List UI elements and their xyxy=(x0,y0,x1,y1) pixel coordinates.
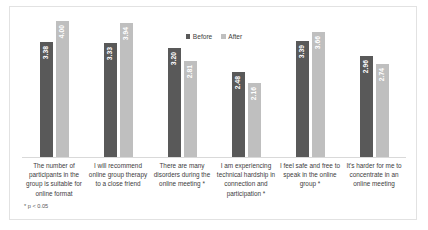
bar-before[interactable]: 3.39 xyxy=(296,41,309,157)
bar-group: 3.33 3.94 xyxy=(86,7,150,157)
category-label: I will recommend online group therapy to… xyxy=(86,161,150,198)
bar-pair: 3.33 3.94 xyxy=(86,7,150,157)
category-label: There are many disorders during the onli… xyxy=(150,161,214,198)
bar-before[interactable]: 3.38 xyxy=(40,42,53,157)
x-axis-line xyxy=(22,157,406,158)
bar-value-label: 4.00 xyxy=(59,25,66,38)
bar-value-label: 3.66 xyxy=(315,36,322,49)
bar-group: 3.39 3.66 xyxy=(278,7,342,157)
category-labels: The number of participants in the group … xyxy=(22,161,406,198)
bar-after[interactable]: 4.00 xyxy=(56,21,69,157)
bar-group: 3.38 4.00 xyxy=(22,7,86,157)
chart-container: Before After 3.38 4.00 xyxy=(9,6,417,220)
bar-value-label: 2.81 xyxy=(187,65,194,78)
significance-footnote: * p < 0.05 xyxy=(24,203,48,209)
bar-pair: 3.20 2.81 xyxy=(150,7,214,157)
bar-pair: 2.48 2.16 xyxy=(214,7,278,157)
bar-value-label: 3.33 xyxy=(107,47,114,60)
bar-before[interactable]: 3.20 xyxy=(168,48,181,157)
bar-pair: 3.39 3.66 xyxy=(278,7,342,157)
bar-value-label: 2.16 xyxy=(251,87,258,100)
bar-group: 2.96 2.74 xyxy=(342,7,406,157)
bar-value-label: 2.96 xyxy=(363,60,370,73)
bar-after[interactable]: 3.66 xyxy=(312,32,325,157)
bar-value-label: 3.94 xyxy=(123,27,130,40)
bar-group: 3.20 2.81 xyxy=(150,7,214,157)
bar-pair: 2.96 2.74 xyxy=(342,7,406,157)
bar-value-label: 3.38 xyxy=(43,46,50,59)
bar-before[interactable]: 3.33 xyxy=(104,43,117,157)
plot-area: 3.38 4.00 3.33 3.94 xyxy=(10,7,418,221)
bar-value-label: 2.74 xyxy=(379,68,386,81)
bar-before[interactable]: 2.48 xyxy=(232,72,245,157)
bar-pair: 3.38 4.00 xyxy=(22,7,86,157)
bar-after[interactable]: 2.81 xyxy=(184,61,197,157)
bar-before[interactable]: 2.96 xyxy=(360,56,373,157)
bar-value-label: 2.48 xyxy=(235,76,242,89)
bar-groups: 3.38 4.00 3.33 3.94 xyxy=(22,7,406,157)
category-label: The number of participants in the group … xyxy=(22,161,86,198)
bar-after[interactable]: 2.16 xyxy=(248,83,261,157)
category-label: I feel safe and free to speak in the onl… xyxy=(278,161,342,198)
category-label: I am experiencing technical hardship in … xyxy=(214,161,278,198)
bar-after[interactable]: 3.94 xyxy=(120,23,133,157)
category-label: It's harder for me to concentrate in an … xyxy=(342,161,406,198)
bar-value-label: 3.20 xyxy=(171,52,178,65)
bar-after[interactable]: 2.74 xyxy=(376,64,389,157)
bar-value-label: 3.39 xyxy=(299,45,306,58)
bar-group: 2.48 2.16 xyxy=(214,7,278,157)
